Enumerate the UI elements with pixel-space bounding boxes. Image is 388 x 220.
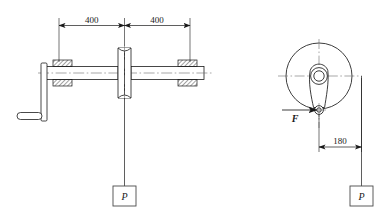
load-label-left: P: [120, 191, 127, 202]
crank-handle: [17, 113, 42, 120]
engineering-drawing-sheet: 400 400: [0, 0, 388, 220]
load-label-right: P: [357, 191, 364, 202]
dimension-line-right-400: 400: [125, 15, 191, 26]
dim-label-left-400: 400: [85, 15, 99, 25]
right-view-group: F 180 P: [278, 39, 373, 206]
crank-arm: [41, 63, 47, 121]
crank-hub: [311, 68, 328, 85]
load-weight-box-right: P: [350, 186, 373, 206]
dim-label-right-400: 400: [150, 15, 164, 25]
dim-label-180: 180: [333, 136, 347, 146]
dimension-line-left-400: 400: [59, 15, 125, 26]
left-view-group: 400 400: [17, 15, 212, 206]
force-label-F: F: [291, 113, 299, 124]
drawing-canvas: 400 400: [0, 0, 388, 220]
dimension-line-180: 180: [319, 136, 362, 147]
load-weight-box-left: P: [113, 186, 136, 206]
force-arrow-F: F: [282, 110, 317, 124]
